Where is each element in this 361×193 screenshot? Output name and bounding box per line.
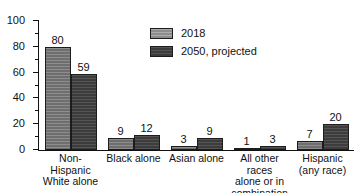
- legend-label-2018: 2018: [181, 28, 205, 39]
- chart-legend: 2018 2050, projected: [150, 27, 257, 63]
- bar[interactable]: 9: [108, 138, 134, 150]
- legend-swatch-2050-icon: [150, 46, 173, 57]
- x-axis-category-label: Non-HispanicWhite alone: [39, 153, 102, 193]
- bar-value-label: 3: [269, 134, 275, 145]
- y-axis-tick-label: 20: [13, 118, 25, 129]
- bar-value-label: 1: [243, 136, 249, 147]
- bar[interactable]: 12: [134, 135, 160, 150]
- bar[interactable]: 1: [234, 148, 260, 150]
- y-axis-tick: [35, 110, 38, 111]
- legend-item-2050: 2050, projected: [150, 45, 257, 58]
- bar-group: 8059: [39, 21, 102, 150]
- bar[interactable]: 7: [297, 141, 323, 150]
- y-axis-tick: [33, 46, 38, 47]
- legend-label-2050: 2050, projected: [181, 46, 257, 57]
- bar-value-label: 9: [117, 126, 123, 137]
- y-axis-tick: [33, 20, 38, 21]
- bar-value-label: 59: [77, 62, 89, 73]
- bar-value-label: 80: [51, 35, 63, 46]
- bar[interactable]: 59: [71, 74, 97, 150]
- y-axis-tick-label: 0: [19, 144, 25, 155]
- bar-value-label: 20: [329, 112, 341, 123]
- y-axis-tick: [35, 33, 38, 34]
- x-axis-category-labels: Non-HispanicWhite aloneBlack aloneAsian …: [39, 153, 354, 193]
- bar-chart: 020406080100 80599123913720 Non-Hispanic…: [0, 0, 361, 193]
- bar[interactable]: 80: [45, 47, 71, 150]
- y-axis-tick: [35, 136, 38, 137]
- y-axis-tick: [33, 97, 38, 98]
- y-axis-tick-label: 100: [7, 15, 25, 26]
- legend-swatch-2018-icon: [150, 28, 173, 39]
- y-axis-tick: [33, 149, 38, 150]
- y-axis-tick-labels: 020406080100: [0, 20, 33, 151]
- bar-group: 720: [291, 21, 354, 150]
- x-axis-line: [38, 150, 354, 151]
- bar-pair: 720: [291, 21, 354, 150]
- x-axis-category-label: Asian alone: [165, 153, 228, 193]
- bar-value-label: 12: [140, 123, 152, 134]
- bar[interactable]: 9: [197, 138, 223, 150]
- y-axis-tick-label: 80: [13, 40, 25, 51]
- legend-item-2018: 2018: [150, 27, 257, 40]
- bar[interactable]: 20: [323, 124, 349, 150]
- bar-value-label: 3: [180, 134, 186, 145]
- y-axis-tick-label: 40: [13, 92, 25, 103]
- x-axis-category-label: All other racesalone or incombination: [228, 153, 291, 193]
- y-axis-tick: [33, 123, 38, 124]
- y-axis-tick-label: 60: [13, 66, 25, 77]
- bar[interactable]: 3: [260, 146, 286, 150]
- y-axis-tick: [35, 85, 38, 86]
- bar-value-label: 7: [306, 129, 312, 140]
- bar[interactable]: 3: [171, 146, 197, 150]
- x-axis-category-label: Black alone: [102, 153, 165, 193]
- x-axis-category-label: Hispanic(any race): [291, 153, 354, 193]
- y-axis-tick: [33, 72, 38, 73]
- bar-value-label: 9: [206, 126, 212, 137]
- y-axis-tick: [35, 59, 38, 60]
- bar-pair: 8059: [39, 21, 102, 150]
